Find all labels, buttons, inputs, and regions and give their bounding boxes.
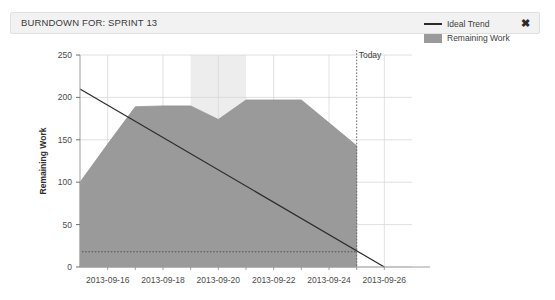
- y-axis-tick-label: 150: [58, 135, 72, 145]
- y-axis-tick-label: 0: [67, 262, 72, 272]
- x-axis-tick-label: 2013-09-18: [141, 275, 185, 285]
- burndown-chart: Today 050100150200250 2013-09-162013-09-…: [0, 36, 555, 300]
- x-axis-tick-label: 2013-09-16: [86, 275, 130, 285]
- y-axis-tick-label: 50: [63, 220, 73, 230]
- series-remaining-work: [80, 100, 357, 267]
- x-axis-tick-label: 2013-09-24: [307, 275, 351, 285]
- legend-item-ideal-trend[interactable]: Ideal Trend: [424, 18, 544, 30]
- legend-swatch-line-icon: [424, 23, 442, 25]
- y-axis-tick-label: 250: [58, 50, 72, 60]
- y-axis-tick-label: 100: [58, 177, 72, 187]
- y-axis-tick-label: 200: [58, 92, 72, 102]
- page-title: BURNDOWN FOR: SPRINT 13: [21, 17, 157, 28]
- today-label: Today: [359, 50, 382, 60]
- x-axis-tick-label: 2013-09-22: [252, 275, 296, 285]
- x-axis: 2013-09-162013-09-182013-09-202013-09-22…: [80, 267, 430, 285]
- y-axis: 050100150200250: [58, 50, 80, 272]
- x-axis-tick-label: 2013-09-26: [363, 275, 407, 285]
- x-axis-tick-label: 2013-09-20: [197, 275, 241, 285]
- chart-canvas: Today 050100150200250 2013-09-162013-09-…: [0, 36, 555, 300]
- legend-item-label: Ideal Trend: [447, 19, 490, 29]
- y-axis-title: Remaining Work: [38, 127, 48, 194]
